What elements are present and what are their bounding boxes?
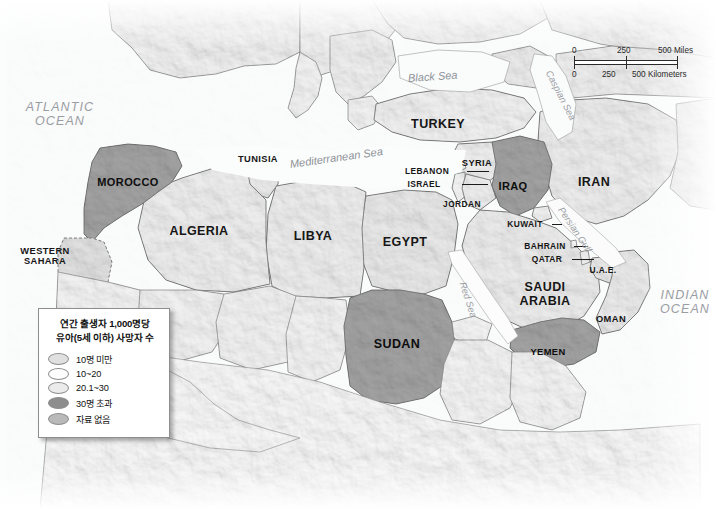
country-egypt	[360, 190, 458, 294]
legend-item: 30명 초과	[48, 396, 162, 410]
scale-tick-mid	[626, 56, 627, 69]
legend-item: 20.1~30	[48, 382, 162, 394]
legend-swatch-icon	[48, 353, 69, 365]
country-libya	[266, 180, 366, 298]
country-qatar	[580, 250, 590, 265]
scale-miles-mid: 250	[617, 46, 631, 55]
scale-miles-max: 500 Miles	[658, 46, 693, 55]
legend-swatch-icon	[48, 382, 69, 394]
legend-item-label: 30명 초과	[76, 396, 112, 410]
scale-km-max: 500 Kilometers	[632, 70, 687, 79]
legend-item-label: 자료 없음	[76, 412, 110, 426]
legend-swatch-icon	[48, 368, 69, 380]
scale-tick-end	[677, 56, 678, 69]
scale-bar: 0 250 500 Miles 0 250 500 Kilometers	[572, 46, 694, 86]
legend-title-line2: 유아(5세 이하) 사망자 수	[56, 332, 154, 343]
legend-item: 10~20	[48, 368, 162, 380]
legend-item-label: 10~20	[76, 369, 101, 379]
legend-item-list: 10명 미만10~2020.1~3030명 초과자료 없음	[48, 352, 162, 426]
scale-km-zero: 0	[572, 70, 577, 79]
country-sudan	[344, 290, 456, 404]
legend-title: 연간 출생자 1,000명당 유아(5세 이하) 사망자 수	[48, 317, 162, 345]
fade-top	[0, 0, 716, 46]
legend-item: 10명 미만	[48, 352, 162, 366]
land-chad	[286, 296, 350, 382]
scale-tick-start	[574, 56, 575, 69]
scale-miles-zero: 0	[572, 46, 577, 55]
country-bahrain	[571, 240, 577, 248]
legend-item-label: 20.1~30	[76, 383, 109, 393]
map-legend: 연간 출생자 1,000명당 유아(5세 이하) 사망자 수 10명 미만10~…	[38, 308, 170, 438]
legend-swatch-icon	[48, 413, 69, 425]
legend-swatch-icon	[48, 397, 69, 409]
map-figure: 0 250 500 Miles 0 250 500 Kilometers 연간 …	[0, 0, 716, 509]
scale-km-mid: 250	[602, 70, 616, 79]
legend-item: 자료 없음	[48, 412, 162, 426]
legend-item-label: 10명 미만	[76, 352, 112, 366]
legend-title-line1: 연간 출생자 1,000명당	[60, 318, 150, 329]
